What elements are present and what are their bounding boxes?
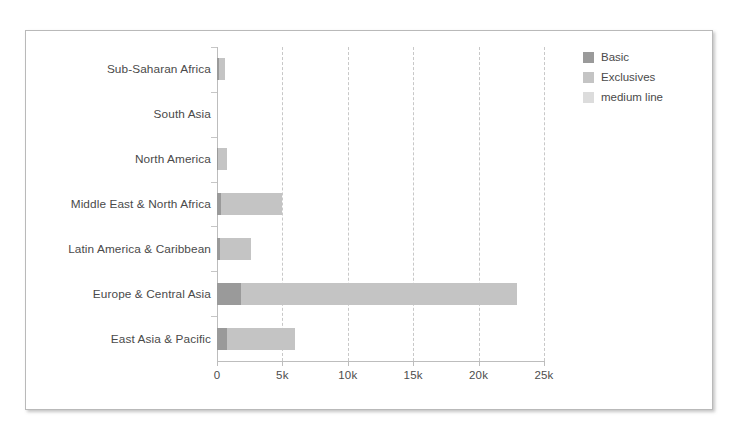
bar-segment[interactable] [217, 328, 227, 350]
bar-segment[interactable] [227, 328, 296, 350]
bar-segment[interactable] [220, 238, 251, 260]
x-axis-tick-label: 10k [328, 369, 368, 381]
chart-screenshot: 05k10k15k20k25kEast Asia & PacificEurope… [0, 0, 732, 436]
gridline-20k [479, 47, 480, 361]
bar-stack[interactable] [217, 238, 251, 260]
y-tick-mark [211, 316, 217, 317]
bar-segment[interactable] [217, 283, 241, 305]
x-axis-tick-label: 15k [393, 369, 433, 381]
y-tick-mark [211, 92, 217, 93]
legend-item[interactable]: Exclusives [583, 67, 707, 87]
y-tick-mark [211, 271, 217, 272]
y-tick-mark [211, 47, 217, 48]
gridline-5k [282, 47, 283, 361]
gridline-25k [544, 47, 545, 361]
bar-stack[interactable] [217, 193, 282, 215]
legend-label: Basic [601, 51, 629, 63]
y-axis-category-label: East Asia & Pacific [111, 332, 211, 346]
y-axis-category-label: North America [135, 152, 211, 166]
bar-segment[interactable] [218, 148, 227, 170]
gridline-15k [413, 47, 414, 361]
y-tick-mark [211, 182, 217, 183]
y-tick-mark [211, 226, 217, 227]
x-axis-tick-label: 20k [459, 369, 499, 381]
y-axis-category-label: Latin America & Caribbean [68, 242, 211, 256]
legend-label: Exclusives [601, 71, 655, 83]
bar-segment[interactable] [221, 193, 282, 215]
y-axis-category-label: Middle East & North Africa [71, 197, 211, 211]
legend-item[interactable]: medium line [583, 87, 707, 107]
legend-label: medium line [601, 91, 663, 103]
chart-frame: 05k10k15k20k25kEast Asia & PacificEurope… [25, 30, 713, 410]
chart-legend: BasicExclusivesmedium line [583, 47, 707, 107]
bar-stack[interactable] [217, 148, 227, 170]
bar-segment[interactable] [219, 58, 225, 80]
bar-stack[interactable] [217, 328, 295, 350]
y-tick-mark [211, 137, 217, 138]
bar-stack[interactable] [217, 283, 517, 305]
legend-swatch-icon [583, 92, 594, 103]
x-axis-tick-label: 0 [197, 369, 237, 381]
legend-swatch-icon [583, 72, 594, 83]
bar-stack[interactable] [217, 58, 225, 80]
y-axis-category-label: South Asia [154, 107, 211, 121]
y-axis-category-label: Europe & Central Asia [93, 287, 211, 301]
x-axis-tick-label: 25k [524, 369, 564, 381]
x-axis-line [217, 361, 545, 362]
y-axis-category-label: Sub-Saharan Africa [107, 62, 211, 76]
gridline-10k [348, 47, 349, 361]
bar-segment[interactable] [241, 283, 517, 305]
legend-item[interactable]: Basic [583, 47, 707, 67]
legend-swatch-icon [583, 52, 594, 63]
x-axis-tick-label: 5k [262, 369, 302, 381]
